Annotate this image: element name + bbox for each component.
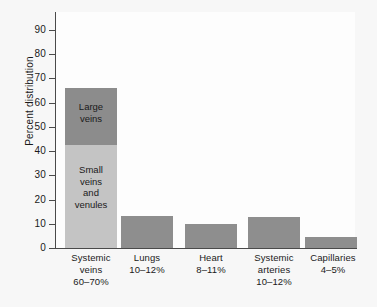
bar-capillaries[interactable] [305, 237, 357, 248]
y-axis-tick-label: 20 [6, 195, 46, 205]
x-axis-label-capillaries: Capillaries 4–5% [297, 252, 369, 276]
x-label-line2: veins [80, 264, 103, 275]
x-label-line1: Heart [199, 252, 223, 263]
y-axis-line [55, 12, 56, 249]
y-axis-tick-mark [49, 151, 55, 152]
y-axis-tick-mark [49, 200, 55, 201]
bar-segment-large-veins[interactable]: Large veins [65, 88, 117, 145]
y-axis-tick-label: 0 [6, 243, 46, 253]
y-axis-tick-mark [49, 127, 55, 128]
x-axis-label-heart: Heart 8–11% [177, 252, 245, 276]
x-label-line1: Capillaries [310, 252, 355, 263]
segment-label-small-veins-line4: venules [75, 199, 108, 210]
x-label-line2: 8–11% [196, 264, 225, 275]
y-axis-tick-mark [49, 78, 55, 79]
segment-label-large-veins-line1: Large [79, 101, 103, 112]
segment-label-small-veins-line3: and [83, 187, 99, 198]
segment-label-small-veins-line1: Small [79, 164, 103, 175]
bar-systemic-arteries[interactable] [248, 217, 300, 248]
bar-segment-small-veins-and-venules[interactable]: Small veins and venules [65, 145, 117, 248]
x-label-line3: 60–70% [73, 276, 108, 287]
y-axis-title: Percent distribution [25, 21, 35, 181]
x-label-line1: Systemic [254, 252, 293, 263]
x-label-line1: Lungs [134, 252, 160, 263]
chart-screenshot: 0102030405060708090 Percent distribution… [0, 0, 377, 307]
x-axis-label-lungs: Lungs 10–12% [113, 252, 181, 276]
y-axis-tick-mark [49, 175, 55, 176]
segment-label-small-veins-line2: veins [80, 176, 102, 187]
x-label-line2: 4–5% [321, 264, 346, 275]
x-axis-line [55, 248, 357, 249]
x-label-line2: arteries [258, 264, 290, 275]
x-label-line3: 10–12% [256, 276, 291, 287]
x-label-line2: 10–12% [129, 264, 164, 275]
y-axis-tick-mark [49, 54, 55, 55]
y-axis-tick-mark [49, 30, 55, 31]
y-axis-tick-mark [49, 103, 55, 104]
y-axis-tick-mark [49, 248, 55, 249]
bar-lungs[interactable] [121, 216, 173, 248]
bar-systemic-veins[interactable]: Large veins Small veins and venules [65, 88, 117, 248]
x-label-line1: Systemic [71, 252, 110, 263]
segment-label-large-veins-line2: veins [80, 113, 102, 124]
y-axis-tick-label: 10 [6, 219, 46, 229]
y-axis-tick-mark [49, 224, 55, 225]
bar-heart[interactable] [185, 224, 237, 248]
